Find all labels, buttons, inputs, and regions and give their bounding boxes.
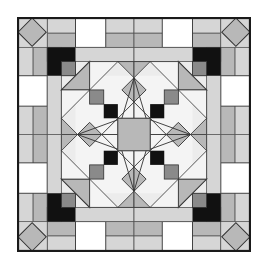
quilt-block bbox=[17, 17, 251, 252]
quadrant-bottom-right bbox=[134, 135, 251, 253]
quadrant-top-left bbox=[17, 17, 134, 135]
quadrant-top-right bbox=[134, 17, 251, 135]
quadrant-bottom-left bbox=[17, 135, 134, 253]
